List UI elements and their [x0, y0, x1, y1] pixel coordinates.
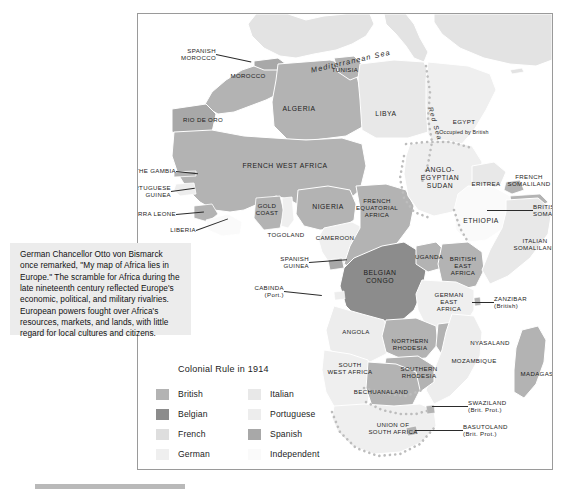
legend-label-french: French — [178, 429, 206, 439]
legend-item-british[interactable]: British — [156, 384, 210, 404]
region-cabinda — [334, 291, 345, 300]
legend-label-italian: Italian — [270, 389, 294, 399]
legend-label-independent: Independent — [270, 449, 319, 459]
region-libya — [358, 60, 432, 138]
legend-item-spanish[interactable]: Spanish — [248, 424, 319, 444]
region-northern-rhodesia — [382, 318, 438, 360]
legend-item-italian[interactable]: Italian — [248, 384, 319, 404]
legend-label-belgian: Belgian — [178, 409, 208, 419]
map-leader-line-swaziland — [432, 406, 468, 407]
legend-swatch-french — [156, 429, 169, 440]
legend-column-colonial-powers-1: BritishBelgianFrenchGerman — [156, 384, 210, 464]
map-leader-line-zanzibar — [472, 302, 494, 303]
legend-label-spanish: Spanish — [270, 429, 302, 439]
legend-swatch-independent — [248, 449, 261, 460]
legend-swatch-german — [156, 449, 169, 460]
legend-item-belgian[interactable]: Belgian — [156, 404, 210, 424]
legend-label-portuguese: Portuguese — [270, 409, 315, 419]
legend-label-german: German — [178, 449, 210, 459]
legend-title: Colonial Rule in 1914 — [178, 364, 269, 374]
map-legend: Colonial Rule in 1914 BritishBelgianFren… — [148, 364, 363, 464]
bottom-divider-rule — [35, 484, 185, 489]
legend-swatch-italian — [248, 389, 261, 400]
map-leader-line-basutoland — [415, 430, 463, 431]
legend-swatch-british — [156, 389, 169, 400]
legend-item-german[interactable]: German — [156, 444, 210, 464]
region-basutoland — [406, 426, 418, 436]
legend-item-french[interactable]: French — [156, 424, 210, 444]
legend-item-independent[interactable]: Independent — [248, 444, 319, 464]
legend-column-colonial-powers-2: ItalianPortugueseSpanishIndependent — [248, 384, 319, 464]
legend-swatch-portuguese — [248, 409, 261, 420]
legend-swatch-spanish — [248, 429, 261, 440]
legend-swatch-belgian — [156, 409, 169, 420]
legend-label-british: British — [178, 389, 203, 399]
caption-box: German Chancellor Otto von Bismarck once… — [10, 243, 191, 335]
caption-text: German Chancellor Otto von Bismarck once… — [20, 249, 183, 340]
legend-item-portuguese[interactable]: Portuguese — [248, 404, 319, 424]
map-leader-line-british-somaliland — [487, 210, 533, 211]
